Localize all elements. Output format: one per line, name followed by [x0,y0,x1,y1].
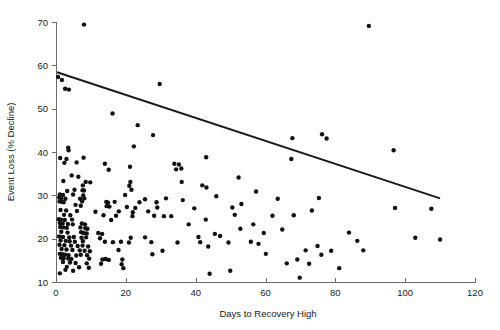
data-point [61,200,65,204]
data-point [347,230,351,234]
data-point [177,162,181,166]
data-point [238,227,242,231]
data-point [303,248,307,252]
data-point [127,184,131,188]
data-point [429,207,433,211]
data-point [214,194,218,198]
data-point [81,183,85,187]
data-point [63,268,67,272]
data-point [98,236,102,240]
data-point [73,261,77,265]
data-point [65,189,69,193]
data-point [136,123,140,127]
data-point [80,243,84,247]
data-point [63,87,67,91]
data-point [87,266,91,270]
data-point [158,82,162,86]
data-point [292,213,296,217]
y-tick-label: 30 [37,190,48,201]
data-point [160,249,164,253]
data-point [86,244,90,248]
data-point [58,156,62,160]
data-point [307,262,311,266]
data-point [143,197,147,201]
data-point [146,209,150,213]
data-point [198,240,202,244]
trend-line [57,72,440,198]
data-point [61,256,65,260]
data-point [66,148,70,152]
data-point [81,155,85,159]
data-point [295,257,299,261]
data-point [262,231,266,235]
scatter-plot-figure: 10203040506070 020406080100120 Days to R… [0,0,500,330]
data-point [119,262,123,266]
data-point [129,236,133,240]
data-point [62,161,66,165]
data-point [239,202,243,206]
data-point [249,240,253,244]
data-point [84,235,88,239]
data-point [73,203,77,207]
data-point [290,136,294,140]
x-axis-ticks: 020406080100120 [53,278,483,298]
data-point [206,244,210,248]
y-tick-label: 20 [37,233,48,244]
data-point [329,249,333,253]
data-point [213,232,217,236]
data-point [70,173,74,177]
data-point [114,214,118,218]
data-point [131,210,135,214]
data-point [110,111,114,115]
data-point [67,87,71,91]
x-tick-label: 80 [330,287,341,298]
data-point [174,167,178,171]
data-point [79,204,83,208]
data-point [285,261,289,265]
y-tick-label: 10 [37,277,48,288]
data-point [162,214,166,218]
data-point [60,78,64,82]
data-point [83,222,87,226]
data-point [181,198,185,202]
data-point [132,144,136,148]
data-point [88,180,92,184]
data-point [393,206,397,210]
data-point [204,155,208,159]
data-point [121,266,125,270]
data-point [152,214,156,218]
data-point [57,234,61,238]
data-point [73,240,77,244]
data-point [81,239,85,243]
data-point [361,248,365,252]
data-points-group [56,22,442,279]
data-point [100,232,104,236]
data-point [310,208,314,212]
y-tick-label: 60 [37,60,48,71]
x-tick-label: 40 [190,287,201,298]
data-point [75,244,79,248]
data-point [78,248,82,252]
data-point [59,247,63,251]
data-point [129,188,133,192]
x-tick-label: 120 [467,287,483,298]
data-point [149,240,153,244]
data-point [264,252,268,256]
plot-canvas: 10203040506070 020406080100120 Days to R… [0,0,500,330]
data-point [130,214,134,218]
data-point [65,230,69,234]
data-point [228,269,232,273]
data-point [218,234,222,238]
data-point [128,180,132,184]
x-tick-label: 100 [397,287,413,298]
data-point [367,24,371,28]
y-tick-label: 50 [37,103,48,114]
y-axis-title: Event Loss (% Decline) [5,103,16,202]
data-point [251,222,255,226]
data-point [85,231,89,235]
data-point [154,200,158,204]
data-point [71,222,75,226]
data-point [58,208,62,212]
data-point [391,148,395,152]
data-point [180,180,184,184]
